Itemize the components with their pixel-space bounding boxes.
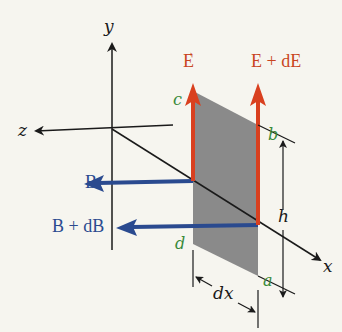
corner-label-d: d: [175, 234, 185, 253]
z-axis-label: z: [18, 120, 27, 140]
z-axis: [36, 125, 173, 131]
corner-label-a: a: [263, 271, 273, 290]
dx-label: dx: [213, 283, 233, 303]
em-wave-diagram: y z x → E E + dE B B + dB c b d a h dx: [0, 0, 342, 332]
e-field-label: → E: [183, 52, 194, 70]
x-axis-label: x: [323, 256, 333, 276]
corner-label-c: c: [173, 90, 182, 109]
height-label: h: [278, 206, 289, 226]
b-field-arrow: [84, 175, 193, 192]
surface-panel: [193, 91, 258, 276]
e-plus-de-label: E + dE: [251, 52, 301, 70]
b-field-label: B: [85, 173, 97, 191]
b-plus-db-label: B + dB: [52, 217, 104, 235]
y-axis-label: y: [104, 16, 114, 36]
corner-label-b: b: [268, 125, 278, 144]
